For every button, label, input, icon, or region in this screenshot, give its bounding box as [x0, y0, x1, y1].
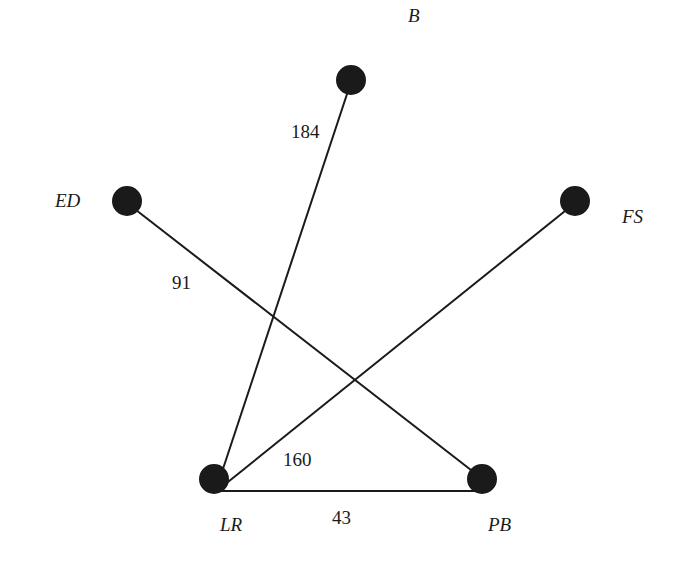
- node-label-ed: ED: [54, 190, 81, 211]
- edge-ed-pb: [127, 203, 480, 477]
- node-ed: [112, 186, 142, 216]
- node-label-lr: LR: [219, 514, 243, 535]
- edge-weight-lr-fs: 160: [283, 449, 312, 470]
- node-fs: [560, 186, 590, 216]
- edge-weight-lr-b: 184: [291, 121, 320, 142]
- node-label-pb: PB: [487, 514, 512, 535]
- node-label-b: B: [408, 5, 420, 26]
- node-lr: [199, 464, 229, 494]
- edge-lr-b: [216, 82, 351, 490]
- graph-diagram: B ED FS LR PB 184 91 160 43: [0, 0, 674, 573]
- edge-weight-lr-pb: 43: [332, 507, 351, 528]
- edge-lr-fs: [218, 203, 575, 490]
- node-pb: [467, 464, 497, 494]
- edge-weight-ed-pb: 91: [172, 272, 191, 293]
- node-label-fs: FS: [621, 206, 644, 227]
- node-b: [336, 65, 366, 95]
